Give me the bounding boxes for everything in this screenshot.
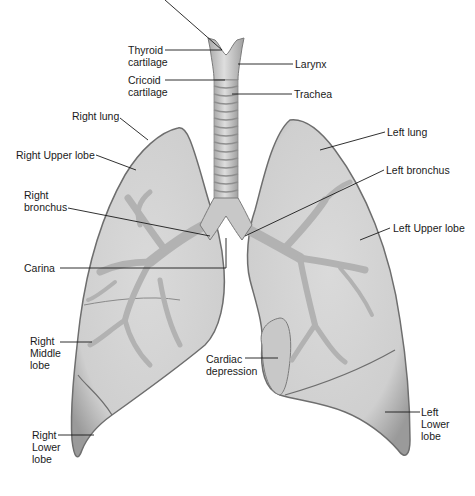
label-right-lung: Right lung [72,110,119,122]
label-right-lower-lobe: Right Lower lobe [32,429,61,465]
right-lung-body [71,128,224,457]
label-cardiac-depression: Cardiac depression [206,353,257,377]
label-left-lung: Left lung [387,126,427,138]
label-thyroid-cartilage: Thyroid cartilage [128,44,168,68]
label-cricoid-cartilage: Cricoid cartilage [128,74,168,98]
label-left-lower-lobe: Left Lower lobe [421,406,450,442]
label-right-upper-lobe: Right Upper lobe [16,149,95,161]
label-right-middle-lobe: Right Middle lobe [30,335,61,371]
trachea-shape [214,80,238,200]
cardiac-notch [261,318,291,395]
label-trachea: Trachea [294,88,332,100]
label-larynx: Larynx [295,58,327,70]
label-left-upper-lobe: Left Upper lobe [393,222,465,234]
label-left-bronchus: Left bronchus [386,164,450,176]
right-lung [71,128,224,457]
label-carina: Carina [24,262,55,274]
lungs-diagram [0,0,475,496]
airway [200,38,252,240]
larynx-shape [208,38,244,80]
label-right-bronchus: Right bronchus [24,189,67,213]
